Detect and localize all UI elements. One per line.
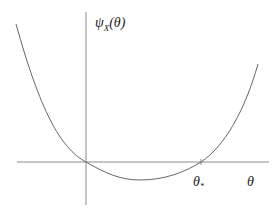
y-axis-label: ψX(θ): [95, 15, 126, 33]
root-label: θ*: [193, 174, 204, 191]
x-axis-label: θ: [247, 174, 254, 189]
convex-function-diagram: ψX(θ) θ* θ: [0, 0, 273, 211]
psi-curve: [16, 24, 258, 180]
